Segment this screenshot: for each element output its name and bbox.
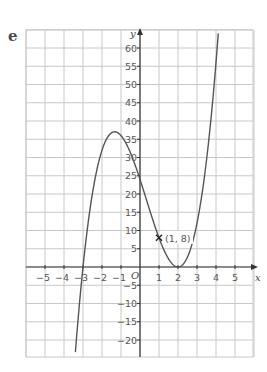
point-annotation: (1, 8) (156, 231, 193, 244)
svg-text:−5: −5 (123, 280, 137, 291)
svg-text:60: 60 (125, 43, 137, 54)
svg-text:−20: −20 (117, 335, 137, 346)
axes (26, 28, 258, 357)
cubic-graph: −5−4−3−2−112345−20−15−10−551015202530354… (0, 0, 267, 372)
svg-text:y: y (129, 28, 136, 39)
svg-text:2: 2 (175, 272, 181, 283)
svg-text:4: 4 (213, 272, 219, 283)
svg-text:5: 5 (232, 272, 238, 283)
svg-text:x: x (255, 272, 261, 283)
svg-text:20: 20 (125, 189, 137, 200)
tick-labels: −5−4−3−2−112345−20−15−10−551015202530354… (36, 28, 261, 346)
svg-text:25: 25 (125, 170, 137, 181)
svg-text:40: 40 (125, 116, 137, 127)
svg-text:−10: −10 (117, 298, 137, 309)
svg-text:5: 5 (131, 243, 137, 254)
svg-text:10: 10 (125, 225, 137, 236)
svg-text:35: 35 (125, 134, 137, 145)
svg-text:−2: −2 (93, 272, 107, 283)
svg-text:(1, 8): (1, 8) (165, 233, 191, 244)
svg-text:−4: −4 (55, 272, 69, 283)
svg-text:45: 45 (125, 97, 137, 108)
svg-text:1: 1 (156, 272, 162, 283)
svg-text:15: 15 (125, 207, 137, 218)
svg-text:3: 3 (194, 272, 200, 283)
svg-text:O: O (131, 270, 139, 281)
svg-text:50: 50 (125, 79, 137, 90)
svg-text:−5: −5 (36, 272, 50, 283)
svg-text:55: 55 (125, 61, 137, 72)
svg-text:−15: −15 (117, 316, 137, 327)
